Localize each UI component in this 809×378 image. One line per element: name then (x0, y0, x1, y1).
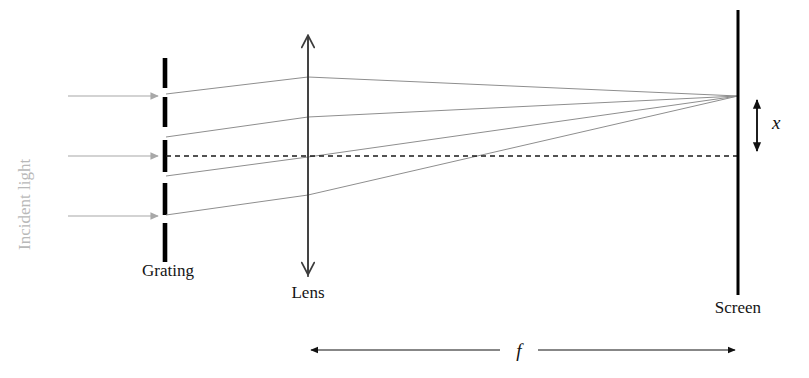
displacement-marker: x (757, 100, 781, 151)
lens-label: Lens (291, 283, 324, 302)
diffracted-rays-group (166, 77, 738, 215)
diffracted-ray-order-plus2 (166, 77, 738, 96)
optics-figure: x f Incident light Grating Lens Screen (0, 0, 809, 378)
diffraction-grating-diagram: x f Incident light Grating Lens Screen (0, 0, 809, 378)
grating-label: Grating (142, 261, 194, 280)
displacement-label: x (771, 112, 781, 133)
incident-light-label: Incident light (15, 159, 34, 250)
diffracted-ray-order-plus1 (166, 96, 738, 137)
focal-length-label: f (516, 340, 524, 361)
incident-light-group (68, 96, 158, 216)
diffracted-ray-order-zero (166, 96, 738, 176)
screen-label: Screen (715, 298, 762, 317)
focal-length-marker: f (311, 340, 735, 361)
